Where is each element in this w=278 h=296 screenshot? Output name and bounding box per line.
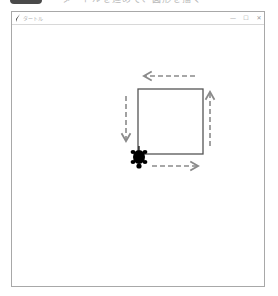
- feather-icon: [15, 14, 21, 22]
- caption-badge: [10, 0, 42, 4]
- caption-text: ー タートルを進めて、図形を描く: [48, 0, 202, 4]
- window-title: タートル: [23, 14, 43, 22]
- caption-bar: ー タートルを進めて、図形を描く: [0, 0, 278, 5]
- minimize-button[interactable]: —: [227, 13, 239, 23]
- close-button[interactable]: ✕: [253, 13, 265, 23]
- turtle-window: タートル — ☐ ✕: [11, 11, 265, 287]
- maximize-button[interactable]: ☐: [240, 13, 252, 23]
- turtle-canvas[interactable]: [12, 25, 264, 286]
- title-bar[interactable]: タートル — ☐ ✕: [12, 12, 264, 25]
